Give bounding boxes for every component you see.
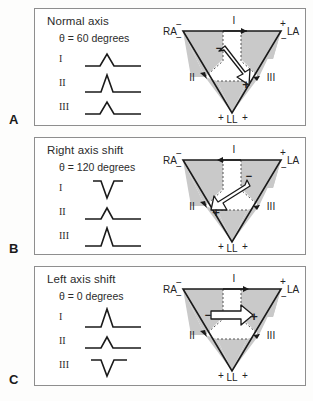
la-sign-bottom: − xyxy=(281,33,287,44)
vector-tip-sign: + xyxy=(242,77,250,92)
lead-label-i: I xyxy=(59,182,62,193)
ll-sign-right: + xyxy=(242,241,248,252)
la-sign-bottom: − xyxy=(281,162,287,173)
ecg-waveform-lead-iii xyxy=(83,226,143,250)
panel-c-lead-list: I II III xyxy=(41,307,171,379)
lead-axis-label-iii: III xyxy=(267,330,275,341)
vector-tip-sign: + xyxy=(212,205,220,220)
lead-label-i: I xyxy=(59,53,62,64)
vertex-label-ll: LL xyxy=(226,114,238,125)
panel-a-lead-list: I II III xyxy=(41,49,171,121)
ll-sign-left: + xyxy=(218,370,224,381)
ecg-waveform-lead-iii xyxy=(83,97,143,121)
vector-tip-sign: + xyxy=(250,309,258,324)
einthoven-triangle-c: − + RA − − LA + − LL + + I II III xyxy=(161,269,303,383)
lead-axis-label-ii: II xyxy=(189,330,195,341)
panel-letter-a: A xyxy=(9,112,18,127)
ra-sign-bottom: − xyxy=(176,161,182,172)
panel-letter-b: B xyxy=(9,241,18,256)
vertex-label-la: LA xyxy=(287,155,300,166)
ecg-waveform-lead-i xyxy=(83,307,143,331)
ra-sign-bottom: − xyxy=(176,290,182,301)
vertex-label-la: LA xyxy=(287,26,300,37)
vector-origin-sign: − xyxy=(205,309,211,321)
vertex-label-ra: RA xyxy=(163,26,177,37)
panel-b-theta: θ = 120 degrees xyxy=(59,161,135,173)
lead-label-iii: III xyxy=(59,101,69,112)
lead-axis-label-iii: III xyxy=(267,201,275,212)
ecg-waveform-lead-ii xyxy=(83,73,143,97)
ll-sign-right: + xyxy=(242,112,248,123)
vertex-label-ll: LL xyxy=(226,243,238,254)
panel-a-theta: θ = 60 degrees xyxy=(59,32,129,44)
lead-axis-label-i: I xyxy=(233,144,236,155)
lead-label-iii: III xyxy=(59,359,69,370)
ecg-waveform-lead-iii xyxy=(83,355,143,379)
lead-row: II xyxy=(41,73,171,97)
panel-c-title: Left axis shift xyxy=(47,273,116,285)
lead-axis-label-ii: II xyxy=(189,72,195,83)
figure-canvas: Normal axis θ = 60 degrees I II III xyxy=(0,0,313,401)
lead-axis-label-iii: III xyxy=(267,72,275,83)
la-sign-top: + xyxy=(280,147,286,158)
vector-origin-sign: − xyxy=(216,42,222,54)
la-sign-top: + xyxy=(280,18,286,29)
lead-row: III xyxy=(41,226,171,250)
ll-sign-left: + xyxy=(218,112,224,123)
vertex-label-ra: RA xyxy=(163,284,177,295)
ecg-waveform-lead-i xyxy=(83,178,143,202)
lead-axis-label-ii: II xyxy=(189,201,195,212)
lead-axis-label-i: I xyxy=(233,273,236,284)
lead-label-iii: III xyxy=(59,230,69,241)
lead-axis-label-i: I xyxy=(233,15,236,26)
einthoven-triangle-a: − + RA − − LA + − LL + + I II III xyxy=(161,11,303,125)
vertex-label-ra: RA xyxy=(163,155,177,166)
einthoven-triangle-b: − + RA − − LA + − LL + + I II III xyxy=(161,140,303,254)
ra-sign-bottom: − xyxy=(176,32,182,43)
lead-row: II xyxy=(41,331,171,355)
la-sign-bottom: − xyxy=(281,291,287,302)
lead-row: I xyxy=(41,307,171,331)
lead-row: III xyxy=(41,97,171,121)
lead-row: I xyxy=(41,178,171,202)
panel-letter-c: C xyxy=(9,372,18,387)
lead-row: I xyxy=(41,49,171,73)
ecg-waveform-lead-ii xyxy=(83,331,143,355)
panel-right-axis-shift: Right axis shift θ = 120 degrees I II II… xyxy=(34,137,306,255)
lead-label-i: I xyxy=(59,311,62,322)
ra-sign-top: − xyxy=(176,19,182,30)
la-sign-top: + xyxy=(280,276,286,287)
ra-sign-top: − xyxy=(176,277,182,288)
panel-c-theta: θ = 0 degrees xyxy=(59,290,124,302)
vertex-label-ll: LL xyxy=(226,372,238,383)
panel-b-title: Right axis shift xyxy=(47,144,123,156)
lead-row: II xyxy=(41,202,171,226)
ll-sign-left: + xyxy=(218,241,224,252)
panel-b-lead-list: I II III xyxy=(41,178,171,250)
ll-sign-right: + xyxy=(242,370,248,381)
lead-row: III xyxy=(41,355,171,379)
panel-left-axis-shift: Left axis shift θ = 0 degrees I II III xyxy=(34,266,306,386)
ra-sign-top: − xyxy=(176,148,182,159)
panel-a-title: Normal axis xyxy=(47,15,109,27)
lead-label-ii: II xyxy=(59,77,66,88)
ecg-waveform-lead-ii xyxy=(83,202,143,226)
lead-label-ii: II xyxy=(59,335,66,346)
vector-origin-sign: − xyxy=(246,170,252,182)
vertex-label-la: LA xyxy=(287,284,300,295)
panel-normal-axis: Normal axis θ = 60 degrees I II III xyxy=(34,8,306,126)
lead-label-ii: II xyxy=(59,206,66,217)
ecg-waveform-lead-i xyxy=(83,49,143,73)
